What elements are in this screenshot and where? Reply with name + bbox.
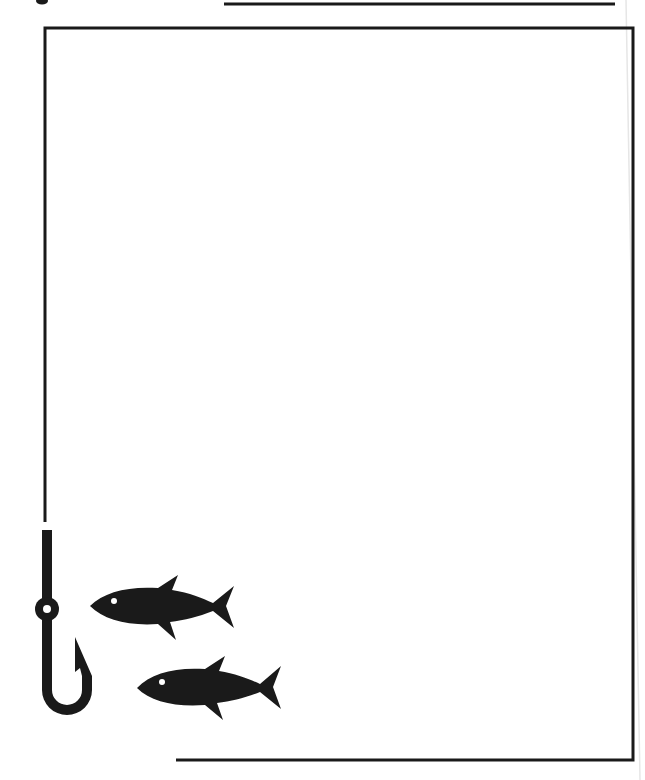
fish-body — [90, 575, 234, 640]
hook-bend — [42, 676, 92, 715]
fishing-hook-icon — [35, 530, 92, 715]
border-artwork — [0, 0, 645, 780]
fish-icon — [90, 575, 234, 640]
hook-barb — [75, 637, 92, 676]
frame-line — [45, 28, 633, 760]
frame-border — [45, 28, 633, 760]
fish-eye — [111, 598, 117, 604]
cropped-text-fragment — [36, 0, 48, 5]
fish-eye — [159, 679, 165, 685]
page-canvas: Blank page with a thin black rectangular… — [0, 0, 645, 780]
fish-body — [137, 656, 281, 720]
hook-eye-hole — [43, 605, 51, 613]
fish-icon — [137, 656, 281, 720]
